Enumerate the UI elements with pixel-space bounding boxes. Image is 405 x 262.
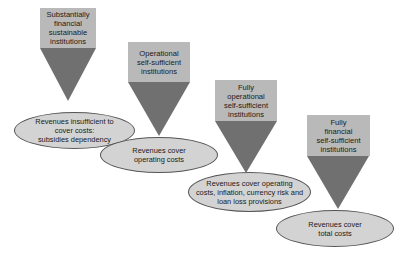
stage-2-institution-label: Operational self-sufficient institutions xyxy=(137,49,181,76)
sustainability-stages-diagram: Substantially financial sustainable inst… xyxy=(0,0,405,262)
stage-4-institution-label: Fully financial self-sufficient institut… xyxy=(316,118,360,154)
stage-3-institution-label: Fully operational self-sufficient instit… xyxy=(224,83,268,119)
stage-2-institution-box: Operational self-sufficient institutions xyxy=(128,42,190,82)
stage-3-revenue-label: Revenues cover operating costs, inflatio… xyxy=(196,179,303,206)
stage-3-revenue-ellipse: Revenues cover operating costs, inflatio… xyxy=(188,172,311,212)
stage-4-revenue-ellipse: Revenues cover total costs xyxy=(276,210,394,247)
stage-2-down-arrow-icon xyxy=(128,82,190,136)
stage-2-revenue-ellipse: Revenues cover operating costs xyxy=(100,137,218,173)
stage-1-down-arrow-icon xyxy=(40,48,96,101)
stage-4-revenue-label: Revenues cover total costs xyxy=(308,220,361,238)
stage-1-revenue-label: Revenues insufficient to cover costs: su… xyxy=(35,117,113,144)
stage-1-institution-box: Substantially financial sustainable inst… xyxy=(40,8,96,48)
stage-1-institution-label: Substantially financial sustainable inst… xyxy=(46,10,89,46)
stage-4-down-arrow-icon xyxy=(307,156,369,209)
stage-4-institution-box: Fully financial self-sufficient institut… xyxy=(307,115,370,156)
stage-3-institution-box: Fully operational self-sufficient instit… xyxy=(215,80,277,121)
stage-2-revenue-label: Revenues cover operating costs xyxy=(132,146,185,164)
stage-3-down-arrow-icon xyxy=(215,121,277,173)
